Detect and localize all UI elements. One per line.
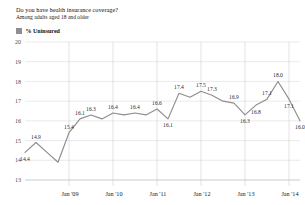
- svg-text:15.4: 15.4: [64, 124, 74, 130]
- legend-swatch-uninsured: [16, 28, 22, 34]
- svg-text:16.3: 16.3: [240, 118, 250, 124]
- legend-label-uninsured: % Uninsured: [26, 28, 60, 34]
- chart-legend: % Uninsured: [16, 26, 301, 35]
- svg-text:17.1: 17.1: [284, 103, 294, 109]
- svg-text:16.8: 16.8: [251, 109, 261, 115]
- svg-text:17: 17: [15, 98, 21, 104]
- svg-text:15: 15: [15, 138, 21, 144]
- svg-text:Jan '10: Jan '10: [105, 190, 122, 197]
- svg-text:16.9: 16.9: [229, 94, 239, 100]
- chart-card: Do you have health insurance coverage? A…: [0, 0, 305, 205]
- svg-text:16: 16: [15, 118, 21, 124]
- svg-text:16.4: 16.4: [108, 104, 118, 110]
- svg-text:16.1: 16.1: [75, 110, 85, 116]
- svg-text:14.9: 14.9: [31, 134, 41, 140]
- svg-text:Jan '09: Jan '09: [61, 190, 78, 197]
- svg-text:Jan '11: Jan '11: [150, 190, 167, 197]
- chart-title: Do you have health insurance coverage?: [16, 6, 301, 14]
- svg-text:Jan '13: Jan '13: [237, 190, 254, 197]
- plot-area: 1314151617181920 Jan '09Jan '10Jan '11Ja…: [0, 38, 305, 205]
- svg-text:18: 18: [15, 79, 21, 85]
- svg-text:17.5: 17.5: [196, 82, 206, 88]
- svg-text:16.6: 16.6: [152, 100, 162, 106]
- chart-subtitle: Among adults aged 18 and older: [16, 14, 301, 22]
- svg-text:16.4: 16.4: [130, 104, 140, 110]
- svg-text:16.3: 16.3: [86, 106, 96, 112]
- svg-text:17.3: 17.3: [207, 86, 217, 92]
- svg-text:19: 19: [15, 59, 21, 65]
- svg-text:20: 20: [15, 39, 21, 45]
- svg-text:14.4: 14.4: [20, 156, 30, 162]
- svg-text:13: 13: [15, 177, 21, 183]
- svg-text:Jan '12: Jan '12: [193, 190, 210, 197]
- svg-text:Jan '14: Jan '14: [281, 190, 298, 197]
- svg-text:17.1: 17.1: [262, 90, 272, 96]
- svg-text:18.0: 18.0: [273, 72, 283, 78]
- svg-text:17.4: 17.4: [174, 84, 184, 90]
- svg-text:16.0: 16.0: [295, 124, 305, 130]
- svg-text:16.1: 16.1: [163, 122, 173, 128]
- x-axis-labels: Jan '09Jan '10Jan '11Jan '12Jan '13Jan '…: [61, 190, 298, 197]
- line-chart-svg: 1314151617181920 Jan '09Jan '10Jan '11Ja…: [0, 38, 305, 205]
